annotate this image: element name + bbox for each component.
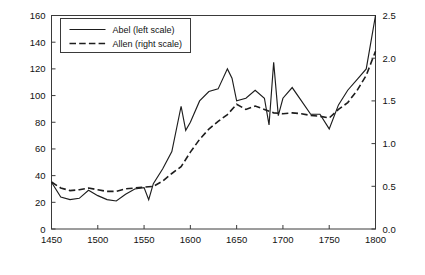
y-tick-left-label: 140 [30,37,46,48]
y-tick-right-label: 2.5 [383,10,396,21]
x-tick-label: 1750 [319,234,340,245]
x-tick-label: 1700 [272,234,293,245]
x-tick-label: 1500 [87,234,108,245]
x-tick-label: 1450 [41,234,62,245]
y-tick-right-label: 2.0 [383,53,396,64]
chart-figure: Wheat, g silver per 100 kg CPI 145015001… [0,0,425,275]
x-tick-label: 1800 [365,234,386,245]
y-tick-right-label: 0.0 [383,224,396,235]
y-tick-left-label: 40 [35,170,46,181]
y-tick-right-label: 1.5 [383,95,396,106]
y-tick-right-label: 1.0 [383,138,396,149]
y-tick-left-label: 0 [40,224,45,235]
x-tick-label: 1550 [134,234,155,245]
y-tick-left-label: 160 [30,10,46,21]
legend-label: Allen (right scale) [113,39,183,49]
y-tick-right-label: 0.5 [383,181,396,192]
x-tick-label: 1650 [226,234,247,245]
y-tick-left-label: 100 [30,90,46,101]
legend-label: Abel (left scale) [113,25,175,35]
plot-area: 14501500155016001650170017501800 0204060… [0,0,425,275]
x-tick-label: 1600 [180,234,201,245]
y-tick-left-label: 60 [35,143,46,154]
y-tick-left-label: 20 [35,197,46,208]
legend: Abel (left scale)Allen (right scale) [61,19,191,53]
y-tick-left-label: 120 [30,63,46,74]
y-tick-left-label: 80 [35,117,46,128]
